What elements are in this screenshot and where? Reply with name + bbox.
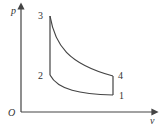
point-label-2: 2 (38, 70, 43, 81)
point-label-3: 3 (38, 10, 43, 21)
process-3-4 (50, 16, 113, 76)
y-axis-label: p (10, 5, 16, 16)
x-axis-label: v (150, 115, 155, 126)
point-label-1: 1 (119, 90, 124, 101)
point-label-4: 4 (118, 70, 123, 81)
process-1-2 (50, 75, 113, 95)
origin-label: O (8, 107, 15, 118)
pv-diagram: p v O 3 2 4 1 (0, 0, 164, 129)
